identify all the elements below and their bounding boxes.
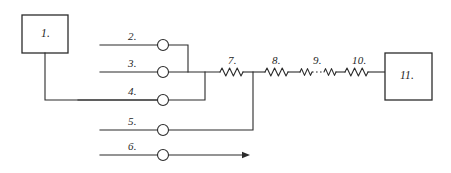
box-11-label: 11. [400,70,414,82]
flow-arrow-icon [242,152,250,158]
wire-line-2-riser [169,45,188,72]
node-circle-5[interactable] [158,125,169,136]
coil-9b-symbol[interactable] [324,69,336,76]
diagram-canvas [0,0,451,173]
coil-8-symbol[interactable] [265,68,288,76]
coil-7-label: 7. [228,55,237,66]
line-3-label: 3. [128,58,137,69]
coil-7-symbol[interactable] [220,68,243,76]
coil-10-symbol[interactable] [345,68,368,76]
line-6-label: 6. [128,141,137,152]
wire-line-5-riser [169,72,253,130]
wire-line-4-riser [169,72,205,100]
line-2-label: 2. [128,31,137,42]
line-5-label: 5. [128,116,137,127]
node-circle-2[interactable] [158,40,169,51]
schematic-diagram: 1. 11. 2. 3. 4. 5. 6. 7. 8. 9. 10. [0,0,451,173]
box-1-label: 1. [41,28,50,40]
coil-9-label: 9. [313,55,322,66]
node-circle-4[interactable] [158,95,169,106]
node-circle-6[interactable] [158,150,169,161]
wire-box1-to-line4 [45,53,163,100]
coil-8-label: 8. [272,55,281,66]
node-circle-3[interactable] [158,67,169,78]
coil-10-label: 10. [352,55,366,66]
coil-9a-symbol[interactable] [300,69,312,76]
line-4-label: 4. [128,86,137,97]
